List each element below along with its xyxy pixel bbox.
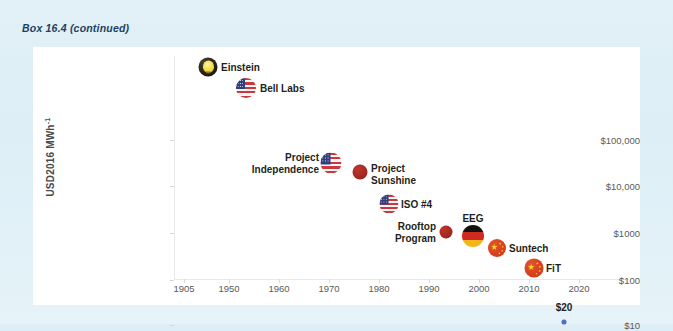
x-tick-mark: [529, 279, 530, 283]
y-axis-line: [174, 56, 175, 280]
y-tick-mark: [170, 325, 174, 326]
y-axis-title-superscript: -1: [44, 118, 51, 125]
data-point-suntech[interactable]: [488, 239, 506, 257]
china-flag-star-icon: [528, 263, 535, 270]
data-label-einstein: Einstein: [221, 62, 260, 74]
china-flag-star-icon: [538, 270, 541, 273]
data-label-project-independence: Project Independence: [252, 152, 319, 175]
china-flag-star-icon: [499, 242, 502, 245]
data-label-bell-labs: Bell Labs: [260, 83, 304, 95]
x-tick-label: 1990: [418, 283, 439, 294]
y-tick-mark: [170, 186, 174, 187]
x-tick-mark: [429, 279, 430, 283]
data-point-20-usd[interactable]: [562, 320, 567, 325]
china-flag-star-icon: [536, 262, 539, 265]
x-tick-label: 2000: [468, 283, 489, 294]
usa-flag-canton: [321, 153, 331, 165]
data-point-iso-4[interactable]: [380, 195, 399, 214]
usa-flag-canton: [380, 195, 389, 205]
y-tick-label: $1000: [506, 228, 640, 239]
x-tick-label: 1905: [173, 283, 194, 294]
x-tick-mark: [329, 279, 330, 283]
y-tick-mark: [170, 280, 174, 281]
x-tick-mark: [579, 279, 580, 283]
x-tick-mark: [229, 279, 230, 283]
china-flag-star-icon: [535, 272, 538, 275]
data-point-project-independence[interactable]: [321, 153, 342, 174]
figure-panel: USD2016 MWh-1 $100,000 $10,000 $1000 $10…: [33, 47, 640, 305]
data-label-rooftop-program: Rooftop Program: [395, 221, 436, 244]
x-tick-label: 1980: [368, 283, 389, 294]
y-axis-title: USD2016 MWh-1: [44, 92, 56, 222]
data-point-fit[interactable]: [525, 259, 544, 278]
y-tick-label: $100,000: [506, 135, 640, 146]
china-flag-star-icon: [539, 265, 542, 268]
data-point-einstein[interactable]: [199, 58, 218, 77]
data-label-fit: FiT: [546, 263, 561, 275]
y-tick-mark: [170, 140, 174, 141]
data-label-iso-4: ISO #4: [401, 199, 432, 211]
chart-plot-area: USD2016 MWh-1 $100,000 $10,000 $1000 $10…: [33, 47, 640, 305]
data-label-project-sunshine: Project Sunshine: [371, 163, 416, 186]
y-axis-title-text: USD2016 MWh: [45, 124, 56, 196]
data-label-eeg: EEG: [462, 213, 483, 225]
y-tick-label: $10,000: [506, 181, 640, 192]
data-label-suntech: Suntech: [509, 243, 548, 255]
usa-flag-canton: [236, 78, 245, 89]
data-point-bell-labs[interactable]: [236, 78, 256, 98]
x-tick-mark: [379, 279, 380, 283]
y-tick-label: $10: [506, 320, 640, 331]
data-point-eeg[interactable]: [462, 225, 484, 247]
x-tick-mark: [479, 279, 480, 283]
x-tick-mark: [184, 279, 185, 283]
x-tick-label: 1950: [218, 283, 239, 294]
box-header: Box 16.4 (continued): [22, 22, 129, 34]
x-tick-label: 2020: [568, 283, 589, 294]
x-tick-mark: [279, 279, 280, 283]
china-flag-star-icon: [498, 252, 501, 255]
data-label-20-usd: $20: [556, 302, 573, 314]
y-tick-mark: [170, 233, 174, 234]
x-tick-label: 1960: [268, 283, 289, 294]
lightbulb-icon: [202, 61, 213, 73]
china-flag-star-icon: [491, 244, 498, 251]
x-tick-label: 2010: [518, 283, 539, 294]
x-tick-label: 1970: [318, 283, 339, 294]
china-flag-star-icon: [501, 245, 504, 248]
data-point-rooftop-program[interactable]: [440, 226, 453, 239]
china-flag-star-icon: [501, 249, 504, 252]
data-point-project-sunshine[interactable]: [353, 165, 368, 180]
